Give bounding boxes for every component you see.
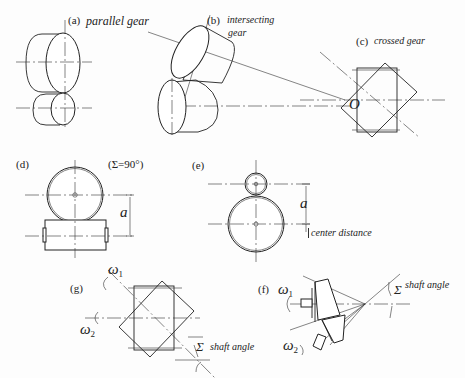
panel-g-shaft-angle-caption: shaft angle (210, 342, 254, 352)
panel-g-omega1: ω1 (108, 262, 123, 279)
panel-a-tag: (a) (68, 15, 80, 26)
panel-f-omega1: ω1 (278, 282, 293, 299)
panel-e-dimension: a (300, 196, 308, 211)
panel-f-shaft-angle-symbol: Σ (394, 283, 402, 296)
spur-pair-drawing (208, 160, 312, 265)
panel-c-tag: (c) (356, 36, 368, 47)
apex-point-label: O (349, 97, 360, 112)
panel-b-caption-line2: gear (228, 28, 246, 38)
panel-d-tag: (d) (16, 159, 29, 170)
panel-a-caption: parallel gear (86, 15, 149, 27)
panel-b-caption-line1: intersecting (227, 15, 274, 25)
panel-b-tag: (b) (207, 15, 220, 26)
gear-types-figure: (a) parallel gear (b) intersecting gear … (0, 0, 465, 378)
panel-f-omega2: ω2 (283, 338, 298, 355)
panel-f-tag: (f) (258, 284, 269, 295)
panel-d-dimension: a (120, 205, 128, 220)
parallel-gear-drawing (16, 20, 92, 130)
panel-g-shaft-angle-symbol: Σ (196, 340, 204, 353)
crossed-helical-drawing (85, 270, 215, 378)
gear-drawings (0, 0, 465, 378)
panel-e-tag: (e) (192, 160, 204, 171)
intersecting-gear-drawing (148, 15, 350, 135)
crossed-gear-drawing (300, 52, 445, 138)
panel-g-omega2: ω2 (80, 322, 95, 339)
panel-f-shaft-angle-caption: shaft angle (405, 280, 449, 290)
panel-g-tag: (g) (70, 283, 83, 294)
center-distance-caption: center distance (308, 228, 372, 238)
bevel-gear-drawing (287, 274, 410, 355)
panel-c-caption: crossed gear (374, 36, 425, 46)
worm-gear-drawing (25, 160, 135, 258)
panel-d-note: (Σ=90°) (108, 159, 143, 170)
